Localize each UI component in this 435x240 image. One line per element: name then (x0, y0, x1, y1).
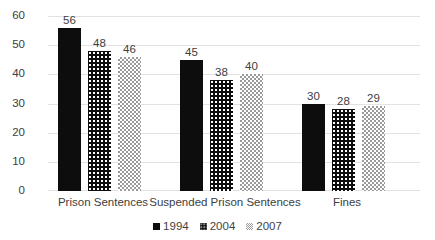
bar-slot-2004: 28 (332, 16, 355, 191)
legend-item-2007[interactable]: 2007 (246, 221, 282, 233)
bar-slot-2007: 40 (240, 16, 263, 191)
bar-value-label: 28 (337, 96, 350, 108)
bar-prison-sentences-2004[interactable]: 48 (88, 51, 111, 191)
bar-value-label: 38 (215, 67, 228, 79)
legend-label-2007: 2007 (256, 221, 282, 233)
bars-layer: 56 48 46 45 (48, 16, 420, 191)
category-label-fines: Fines (333, 196, 361, 209)
legend-item-1994[interactable]: 1994 (153, 221, 189, 233)
bar-group-prison-sentences: 56 48 46 (58, 16, 148, 191)
legend-item-2004[interactable]: 2004 (200, 221, 236, 233)
legend-label-1994: 1994 (163, 221, 189, 233)
bar-slot-2004: 38 (210, 16, 233, 191)
bar-value-label: 56 (63, 14, 76, 26)
bar-value-label: 48 (93, 38, 106, 50)
legend-swatch-icon-2004 (200, 223, 207, 230)
legend-swatch-icon-1994 (153, 223, 160, 230)
y-axis-tick-10: 10 (0, 156, 25, 168)
bar-value-label: 46 (123, 43, 136, 55)
bar-fines-2004[interactable]: 28 (332, 109, 355, 191)
category-label-suspended-prison-sentences: Suspended Prison Sentences (149, 196, 301, 209)
bar-value-label: 40 (245, 61, 258, 73)
bar-slot-1994: 30 (302, 16, 325, 191)
category-label-prison-sentences: Prison Sentences (58, 196, 148, 209)
bar-suspended-prison-sentences-2007[interactable]: 40 (240, 74, 263, 191)
y-axis-tick-30: 30 (0, 98, 25, 110)
bar-chart: 60 50 40 30 20 10 0 56 48 (0, 0, 435, 240)
bar-slot-2007: 46 (118, 16, 141, 191)
bar-slot-1994: 45 (180, 16, 203, 191)
y-axis-tick-20: 20 (0, 127, 25, 139)
bar-group-suspended-prison-sentences: 45 38 40 (180, 16, 270, 191)
category-axis: Prison Sentences Suspended Prison Senten… (48, 196, 420, 214)
legend-swatch-icon-2007 (246, 223, 253, 230)
y-axis-tick-50: 50 (0, 39, 25, 51)
chart-legend: 1994 2004 2007 (0, 221, 435, 233)
bar-slot-2004: 48 (88, 16, 111, 191)
bar-value-label: 45 (185, 46, 198, 58)
bar-value-label: 30 (307, 90, 320, 102)
y-axis-tick-40: 40 (0, 69, 25, 81)
bar-fines-2007[interactable]: 29 (362, 106, 385, 191)
bar-prison-sentences-2007[interactable]: 46 (118, 57, 141, 191)
plot-area: 60 50 40 30 20 10 0 56 48 (48, 16, 420, 191)
bar-fines-1994[interactable]: 30 (302, 104, 325, 192)
bar-prison-sentences-1994[interactable]: 56 (58, 28, 81, 191)
bar-group-fines: 30 28 29 (302, 16, 392, 191)
bar-value-label: 29 (367, 93, 380, 105)
bar-suspended-prison-sentences-2004[interactable]: 38 (210, 80, 233, 191)
bar-suspended-prison-sentences-1994[interactable]: 45 (180, 60, 203, 191)
y-axis-tick-0: 0 (0, 185, 25, 197)
bar-slot-2007: 29 (362, 16, 385, 191)
y-axis-tick-60: 60 (0, 10, 25, 22)
legend-label-2004: 2004 (210, 221, 236, 233)
bar-slot-1994: 56 (58, 16, 81, 191)
